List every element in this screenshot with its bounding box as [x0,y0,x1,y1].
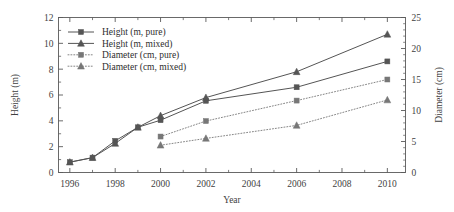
data-point-square [294,98,299,103]
x-tick-label: 2006 [287,179,306,189]
data-point-square [385,77,390,82]
data-point-triangle [157,112,164,118]
x-tick-label: 2008 [332,179,351,189]
legend-label: Diameter (cm, pure) [102,50,179,61]
series-line [161,80,388,137]
chart-canvas: 1996199820002002200420062008201002468101… [0,0,454,212]
data-point-triangle [202,135,209,141]
data-point-square [385,59,390,64]
x-tick-label: 1996 [60,179,79,189]
y-tick-label: 10 [44,39,54,49]
data-point-square [294,85,299,90]
x-tick-label: 2010 [378,179,397,189]
y-tick-label: 6 [49,90,54,100]
legend-marker-square [79,52,84,57]
legend-label: Height (m, mixed) [102,39,172,50]
legend-label: Height (m, pure) [102,27,166,38]
x-axis-title: Year [223,195,241,205]
series-line [70,61,388,162]
y2-tick-label: 25 [412,13,422,23]
y2-tick-label: 5 [412,137,417,147]
x-tick-label: 2004 [242,179,261,189]
y-tick-label: 2 [49,142,54,152]
x-tick-label: 2000 [151,179,170,189]
data-point-square [203,119,208,124]
y2-tick-label: 15 [412,75,422,85]
legend-marker-square [79,30,84,35]
data-point-triangle [293,68,300,74]
y-axis-title: Height (m) [10,74,21,116]
series-line [161,100,388,145]
y2-axis-title: Diameter (cm) [434,67,445,123]
y2-tick-label: 10 [412,106,422,116]
x-tick-label: 2002 [196,179,215,189]
y-tick-label: 12 [44,13,54,23]
data-point-square [158,134,163,139]
y-tick-label: 4 [49,116,54,126]
y-tick-label: 8 [49,65,54,75]
y2-tick-label: 20 [412,44,422,54]
x-tick-label: 1998 [106,179,125,189]
data-point-triangle [384,31,391,37]
data-point-triangle [157,142,164,148]
legend-label: Diameter (cm, mixed) [102,62,186,73]
y-tick-label: 0 [49,168,54,178]
data-point-triangle [384,96,391,102]
y2-tick-label: 0 [412,168,417,178]
chart-figure: 1996199820002002200420062008201002468101… [0,0,454,212]
